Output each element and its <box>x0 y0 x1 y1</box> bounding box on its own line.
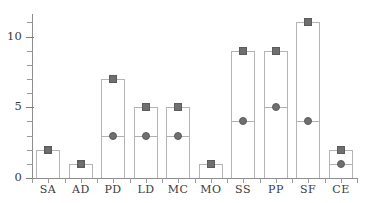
x-axis-boundary-tick <box>292 178 293 183</box>
y-axis-minor-tick <box>27 150 33 151</box>
marker-circle-mc <box>174 132 182 140</box>
marker-circle-sf <box>304 117 312 125</box>
marker-circle-ad <box>77 160 85 168</box>
y-axis-minor-tick <box>27 93 33 94</box>
marker-square-mc <box>174 103 182 111</box>
marker-circle-ss <box>239 117 247 125</box>
y-axis-tick-label: 10 <box>0 31 22 43</box>
marker-square-mo <box>207 160 215 168</box>
x-axis-boundary-tick <box>195 178 196 183</box>
bar-pp <box>264 51 288 178</box>
y-axis-minor-tick <box>27 65 33 66</box>
bar-ld <box>134 107 158 178</box>
x-axis-boundary-tick <box>260 178 261 183</box>
marker-circle-sa <box>44 146 52 154</box>
x-axis-tick-label-ce: CE <box>321 184 361 195</box>
marker-square-ld <box>142 103 150 111</box>
plot-area: 0510 SAADPDLDMCMOSSPPSFCE <box>0 0 367 203</box>
x-axis-boundary-tick <box>227 178 228 183</box>
bar-pd <box>101 79 125 178</box>
y-axis-minor-tick <box>27 136 33 137</box>
marker-circle-ld <box>142 132 150 140</box>
marker-square-sf <box>304 18 312 26</box>
y-axis-tick-label: 5 <box>0 101 22 113</box>
marker-square-pp <box>272 47 280 55</box>
y-axis-major-tick <box>26 107 34 108</box>
x-axis-boundary-tick <box>32 178 33 183</box>
x-axis-boundary-tick <box>357 178 358 183</box>
marker-square-ss <box>239 47 247 55</box>
y-axis-minor-tick <box>27 79 33 80</box>
y-axis-line <box>32 14 33 179</box>
x-axis-boundary-tick <box>130 178 131 183</box>
marker-square-ce <box>337 146 345 154</box>
x-axis-boundary-tick <box>325 178 326 183</box>
bar-mc <box>166 107 190 178</box>
x-axis-boundary-tick <box>65 178 66 183</box>
y-axis-tick-label: 0 <box>0 172 22 184</box>
marker-circle-pd <box>109 132 117 140</box>
y-axis-minor-tick <box>27 51 33 52</box>
marker-square-pd <box>109 75 117 83</box>
y-axis-minor-tick <box>27 164 33 165</box>
marker-circle-pp <box>272 103 280 111</box>
x-axis-boundary-tick <box>97 178 98 183</box>
y-axis-minor-tick <box>27 121 33 122</box>
bar-sf <box>296 22 320 178</box>
y-axis-minor-tick <box>27 22 33 23</box>
marker-circle-ce <box>337 160 345 168</box>
bar-ss <box>231 51 255 178</box>
y-axis-major-tick <box>26 37 34 38</box>
x-axis-boundary-tick <box>162 178 163 183</box>
bar-sa <box>36 150 60 178</box>
chart-container: 0510 SAADPDLDMCMOSSPPSFCE <box>0 0 367 203</box>
